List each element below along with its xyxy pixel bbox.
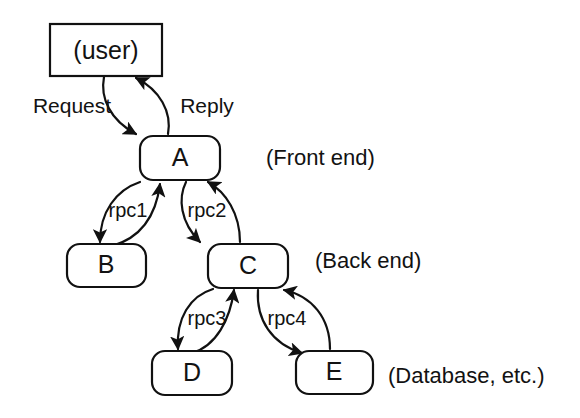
- edge-label-rpc2: rpc2: [188, 199, 227, 221]
- node-B-label: B: [98, 250, 115, 278]
- node-A: A: [140, 136, 220, 180]
- node-C-label: C: [239, 251, 257, 279]
- node-E: E: [296, 351, 373, 394]
- edge-A-to-user-reply: [136, 78, 169, 134]
- node-D: D: [152, 351, 232, 395]
- edge-label-rpc4: rpc4: [268, 307, 307, 329]
- edge-label-rpc3: rpc3: [188, 307, 227, 329]
- node-A-label: A: [172, 143, 189, 171]
- rpc-call-graph-diagram: (user) A B C D E Request Reply: [0, 0, 580, 418]
- node-D-label: D: [183, 358, 201, 386]
- tier-label-back-end: (Back end): [315, 248, 421, 273]
- node-C: C: [208, 244, 288, 288]
- node-user: (user): [50, 24, 162, 76]
- node-user-label: (user): [73, 36, 138, 64]
- tier-label-database: (Database, etc.): [388, 363, 545, 388]
- edge-label-rpc1: rpc1: [109, 199, 148, 221]
- edge-label-reply: Reply: [180, 94, 234, 117]
- tier-label-front-end: (Front end): [266, 145, 375, 170]
- diagram-canvas: (user) A B C D E Request Reply: [0, 0, 580, 418]
- node-B: B: [67, 244, 146, 287]
- node-E-label: E: [326, 357, 343, 385]
- edge-label-request: Request: [33, 94, 111, 117]
